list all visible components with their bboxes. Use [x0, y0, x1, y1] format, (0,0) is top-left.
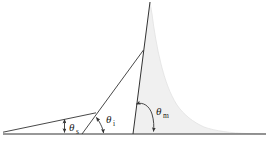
theta-i-label: θ i	[106, 113, 115, 128]
theta-i-subscript: i	[113, 119, 115, 128]
shallow-slope-line	[3, 113, 96, 132]
theta-i-arc	[97, 118, 104, 134]
theta-s-label: θ s	[69, 121, 79, 136]
theta-s-subscript: s	[76, 127, 79, 136]
theta-s-symbol: θ	[69, 121, 75, 133]
diagram-canvas: θ s θ i θ m	[0, 0, 272, 146]
mountain-profile	[133, 2, 266, 134]
theta-i-symbol: θ	[106, 113, 112, 125]
theta-m-subscript: m	[163, 111, 169, 120]
theta-m-symbol: θ	[156, 105, 162, 117]
angle-diagram-figure: θ s θ i θ m	[0, 0, 272, 146]
